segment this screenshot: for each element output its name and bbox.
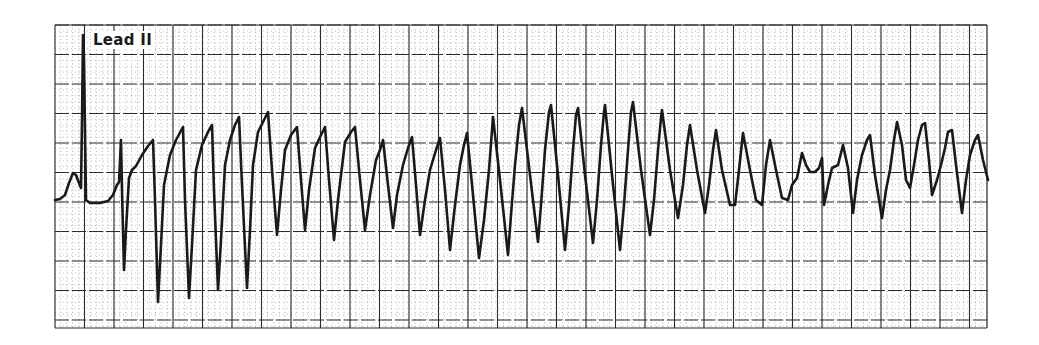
- lead-label: Lead II: [91, 31, 155, 49]
- ecg-rhythm-strip: [0, 0, 1039, 345]
- ecg-trace: [55, 35, 988, 302]
